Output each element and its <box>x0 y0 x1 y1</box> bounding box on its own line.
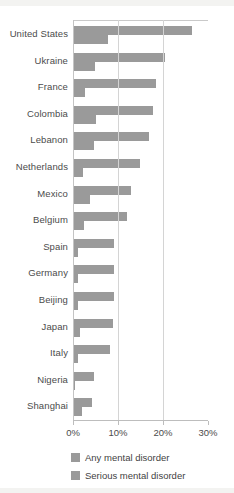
bar-group <box>73 260 208 287</box>
bar-any-mental-disorder <box>73 292 114 301</box>
legend-label: Any mental disorder <box>85 452 169 463</box>
category-label: Colombia <box>0 109 68 119</box>
bar-any-mental-disorder <box>73 26 192 35</box>
bar-group <box>73 287 208 314</box>
category-label: Mexico <box>0 189 68 199</box>
category-label: Beijing <box>0 295 68 305</box>
category-label: Shanghai <box>0 401 68 411</box>
legend-label: Serious mental disorder <box>85 470 185 481</box>
bar-group <box>73 340 208 367</box>
tick-20% <box>163 421 164 425</box>
tick-10% <box>118 421 119 425</box>
category-label: Germany <box>0 268 68 278</box>
legend-item: Serious mental disorder <box>71 467 231 483</box>
bar-serious-mental-disorder <box>73 221 84 230</box>
bar-any-mental-disorder <box>73 239 114 248</box>
bar-serious-mental-disorder <box>73 407 82 416</box>
tick-30% <box>208 421 209 425</box>
x-tick-label: 0% <box>66 427 80 439</box>
scan-edge-bottom <box>0 488 234 493</box>
bar-serious-mental-disorder <box>73 328 80 337</box>
category-label: France <box>0 82 68 92</box>
bar-any-mental-disorder <box>73 319 113 328</box>
category-label: Nigeria <box>0 375 68 385</box>
bar-group <box>73 181 208 208</box>
x-axis-line <box>73 420 208 421</box>
bar-any-mental-disorder <box>73 79 156 88</box>
category-label: United States <box>0 29 68 39</box>
gridline-10% <box>118 20 119 420</box>
bar-any-mental-disorder <box>73 265 114 274</box>
category-label: Spain <box>0 242 68 252</box>
bar-group <box>73 207 208 234</box>
bar-chart: United StatesUkraineFranceColombiaLebano… <box>0 0 234 493</box>
x-tick-label: 20% <box>153 427 172 439</box>
bar-group <box>73 74 208 101</box>
category-label: Ukraine <box>0 56 68 66</box>
category-label: Italy <box>0 348 68 358</box>
tick-0% <box>73 421 74 425</box>
bar-any-mental-disorder <box>73 372 94 381</box>
legend-item: Any mental disorder <box>71 449 231 465</box>
scan-edge-top <box>0 0 234 6</box>
bar-any-mental-disorder <box>73 53 165 62</box>
bar-serious-mental-disorder <box>73 168 83 177</box>
x-tick-label: 30% <box>198 427 217 439</box>
bar-group <box>73 234 208 261</box>
legend-swatch <box>71 471 80 480</box>
legend-swatch <box>71 453 80 462</box>
bar-group <box>73 127 208 154</box>
bar-serious-mental-disorder <box>73 195 90 204</box>
bar-rows <box>73 21 208 420</box>
bar-group <box>73 101 208 128</box>
bar-any-mental-disorder <box>73 398 92 407</box>
category-label: Netherlands <box>0 162 68 172</box>
bar-any-mental-disorder <box>73 186 131 195</box>
bar-serious-mental-disorder <box>73 141 94 150</box>
bar-any-mental-disorder <box>73 159 140 168</box>
bar-serious-mental-disorder <box>73 62 95 71</box>
bar-group <box>73 314 208 341</box>
bar-any-mental-disorder <box>73 132 149 141</box>
bar-group <box>73 48 208 75</box>
category-axis: United StatesUkraineFranceColombiaLebano… <box>0 21 68 420</box>
bar-group <box>73 21 208 48</box>
category-label: Lebanon <box>0 135 68 145</box>
bar-serious-mental-disorder <box>73 35 108 44</box>
bar-group <box>73 367 208 394</box>
bar-serious-mental-disorder <box>73 88 85 97</box>
bar-any-mental-disorder <box>73 106 153 115</box>
x-tick-label: 10% <box>108 427 127 439</box>
value-axis-labels: 0%10%20%30% <box>0 427 234 441</box>
category-label: Japan <box>0 322 68 332</box>
bar-group <box>73 154 208 181</box>
bar-any-mental-disorder <box>73 345 110 354</box>
bar-serious-mental-disorder <box>73 115 96 124</box>
plot-area <box>73 20 208 421</box>
gridline-0% <box>73 20 74 420</box>
bar-group <box>73 393 208 420</box>
gridline-20% <box>163 20 164 420</box>
category-label: Belgium <box>0 215 68 225</box>
chart-legend: Any mental disorderSerious mental disord… <box>71 449 231 485</box>
